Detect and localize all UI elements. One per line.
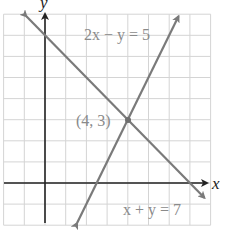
- coordinate-plane: y x 2x − y = 5 x + y = 7 (4, 3): [0, 0, 233, 233]
- intersection-label: (4, 3): [76, 112, 111, 130]
- line-x-plus-y-eq-7: [26, 16, 204, 197]
- x-axis-label: x: [211, 174, 220, 193]
- line2-equation-label: x + y = 7: [123, 201, 181, 219]
- line1-equation-label: 2x − y = 5: [84, 26, 150, 44]
- intersection-point: [125, 117, 131, 123]
- y-axis-label: y: [38, 0, 48, 12]
